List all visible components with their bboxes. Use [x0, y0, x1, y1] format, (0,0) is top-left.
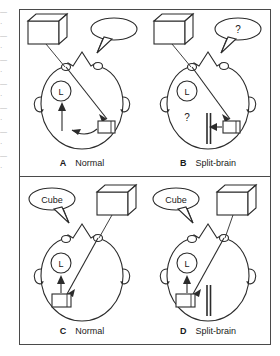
left-eye — [188, 236, 197, 243]
page-edge-fragment: — — [0, 54, 9, 66]
page-edge-fragment: · — [0, 42, 9, 54]
page-edge-fragment: — — [0, 102, 9, 114]
page-edge-fragment: — — [0, 150, 9, 162]
figure-root: — · — · — · — · — · — · — · — [0, 0, 280, 356]
page-edge-text: — · — · — · — · — · — · — · — [0, 6, 11, 350]
bubble-text: ? — [235, 24, 241, 35]
right-eye — [220, 63, 229, 70]
left-eye — [62, 236, 71, 243]
left-hemisphere-label: L — [51, 253, 71, 273]
panel-caption-d: DSplit-brain — [145, 326, 271, 337]
speech-bubble: ? — [215, 18, 261, 53]
page-edge-fragment: · — [0, 90, 9, 102]
page-edge-fragment: — — [0, 6, 9, 18]
panel-letter: A — [60, 158, 67, 168]
page-edge-fragment: · — [0, 114, 9, 126]
speech-bubble: Cube — [29, 188, 75, 223]
cube-representation — [98, 121, 115, 133]
hemisphere-letter: L — [184, 87, 189, 97]
speech-bubble — [91, 18, 137, 53]
stimulus-ray — [46, 44, 65, 67]
panel-d: Cube L — [145, 177, 271, 345]
page-edge-fragment: · — [0, 66, 9, 78]
stimulus-ray — [225, 215, 233, 238]
head-outline — [160, 224, 256, 321]
panel-label: Split-brain — [195, 158, 236, 168]
stimulus-ray — [99, 215, 112, 238]
panel-label: Split-brain — [195, 326, 236, 336]
head-outline — [160, 52, 256, 149]
cube-representation — [52, 294, 71, 307]
left-hemisphere-label: L — [177, 81, 197, 101]
cube-representation — [223, 121, 240, 133]
panel-label: Normal — [75, 326, 104, 336]
page-edge-fragment: — — [0, 126, 9, 138]
panel-caption-c: CNormal — [19, 326, 145, 337]
panel-letter: C — [60, 326, 67, 336]
panel-caption-b: BSplit-brain — [145, 158, 271, 169]
page-edge-fragment: — — [0, 30, 9, 42]
panel-a: L ANormal — [19, 9, 145, 177]
panel-b: ? L ? — [145, 9, 271, 177]
head-outline — [34, 224, 130, 321]
hemisphere-letter: L — [58, 87, 63, 97]
page-edge-fragment: · — [0, 138, 9, 150]
left-hemisphere-label: L — [51, 81, 71, 101]
page-edge-fragment: — — [0, 78, 9, 90]
cube-icon — [28, 14, 67, 44]
head-outline — [34, 52, 130, 149]
panel-caption-a: ANormal — [19, 158, 145, 169]
panel-label: Normal — [75, 158, 104, 168]
page-edge-fragment: · — [0, 18, 9, 30]
cube-icon — [97, 185, 136, 215]
hemisphere-letter: L — [58, 259, 63, 269]
panel-c: Cube L CNormal — [19, 177, 145, 345]
speech-bubble: Cube — [153, 188, 199, 223]
bubble-text: Cube — [41, 195, 63, 205]
right-eye — [94, 63, 103, 70]
bubble-text: Cube — [165, 195, 187, 205]
cube-representation — [176, 294, 195, 307]
stimulus-ray — [172, 44, 191, 67]
left-hemisphere-label: L — [177, 253, 197, 273]
hemisphere-letter: L — [184, 259, 189, 269]
page-edge-fragment: · — [0, 162, 9, 174]
cube-icon — [154, 14, 193, 44]
cube-icon — [217, 185, 256, 215]
panel-letter: B — [180, 158, 187, 168]
panel-letter: D — [180, 326, 187, 336]
question-mark-in-brain: ? — [184, 112, 190, 123]
